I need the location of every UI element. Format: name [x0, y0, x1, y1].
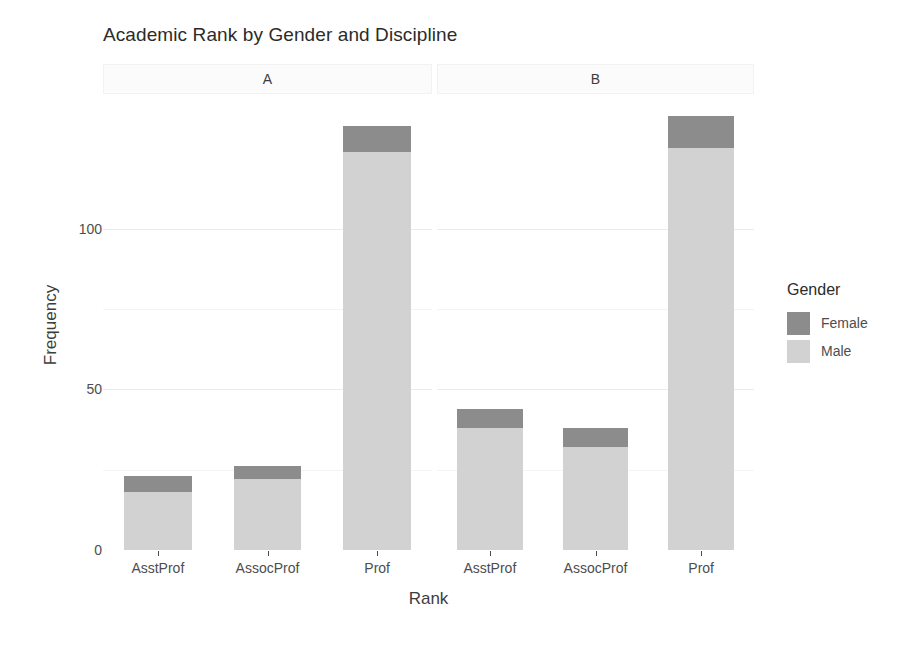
y-tick-label: 50: [56, 382, 102, 396]
legend-title: Gender: [787, 281, 917, 299]
legend-item-male[interactable]: Male: [787, 337, 917, 365]
bar-segment-male[interactable]: [457, 428, 523, 550]
chart-canvas: Academic Rank by Gender and Discipline F…: [0, 0, 921, 661]
bar-segment-male[interactable]: [668, 148, 734, 550]
x-tick-label-a-prof: Prof: [364, 560, 390, 576]
bar-segment-female[interactable]: [457, 409, 523, 428]
y-tick-50: 50: [50, 382, 102, 396]
x-tick-mark: [377, 551, 378, 556]
bar-segment-male[interactable]: [343, 152, 411, 550]
bar-a-assocprof[interactable]: [234, 466, 302, 550]
facet-strip-label-b: B: [591, 71, 600, 87]
legend-swatch-female: [787, 312, 810, 335]
x-tick-mark: [158, 551, 159, 556]
x-tick-mark: [596, 551, 597, 556]
facet-panel-a: [103, 97, 432, 550]
chart-title: Academic Rank by Gender and Discipline: [103, 24, 457, 46]
y-tick-0: 0: [50, 543, 102, 557]
x-tick-mark: [268, 551, 269, 556]
facet-strip-label-a: A: [263, 71, 272, 87]
facet-panel-b: [437, 97, 754, 550]
x-tick-label-b-asstprof: AsstProf: [463, 560, 516, 576]
bar-segment-female[interactable]: [563, 428, 629, 447]
bar-b-assocprof[interactable]: [563, 428, 629, 550]
facet-strip-b: B: [437, 64, 754, 94]
x-tick-label-b-assocprof: AssocProf: [564, 560, 628, 576]
bar-segment-male[interactable]: [234, 479, 302, 550]
legend-swatch-male: [787, 340, 810, 363]
bar-b-prof[interactable]: [668, 116, 734, 550]
bar-segment-female[interactable]: [124, 476, 192, 492]
y-axis-title: Frequency: [41, 255, 61, 395]
x-tick-label-a-assocprof: AssocProf: [236, 560, 300, 576]
bar-segment-female[interactable]: [234, 466, 302, 479]
bar-a-prof[interactable]: [343, 126, 411, 550]
legend-label: Male: [821, 343, 851, 359]
bar-segment-male[interactable]: [563, 447, 629, 550]
x-tick-label-a-asstprof: AsstProf: [131, 560, 184, 576]
x-tick-mark: [701, 551, 702, 556]
x-axis-title: Rank: [103, 589, 754, 609]
y-tick-100: 100: [50, 222, 102, 236]
legend-items: FemaleMale: [787, 309, 917, 365]
legend-item-female[interactable]: Female: [787, 309, 917, 337]
y-tick-label: 100: [56, 222, 102, 236]
legend: Gender FemaleMale: [787, 281, 917, 365]
bar-segment-male[interactable]: [124, 492, 192, 550]
legend-label: Female: [821, 315, 868, 331]
x-tick-label-b-prof: Prof: [688, 560, 714, 576]
bar-a-asstprof[interactable]: [124, 476, 192, 550]
y-tick-label: 0: [56, 543, 102, 557]
bar-b-asstprof[interactable]: [457, 409, 523, 550]
bar-segment-female[interactable]: [343, 126, 411, 152]
facet-strip-a: A: [103, 64, 432, 94]
bar-segment-female[interactable]: [668, 116, 734, 148]
x-tick-mark: [490, 551, 491, 556]
